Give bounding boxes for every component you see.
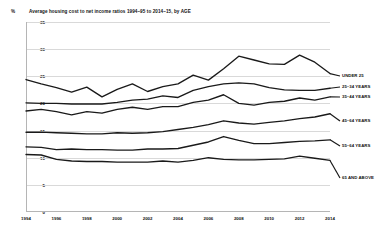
series-leader-line — [330, 87, 340, 88]
series-label-35-44-years: 35–44 YEARS — [342, 94, 370, 99]
x-axis-tick-label: 2010 — [256, 216, 282, 221]
x-axis-tick-label: 2014 — [317, 216, 343, 221]
series-leader-line — [330, 114, 340, 121]
series-label-55-64-years: 55–64 YEARS — [342, 143, 370, 148]
series-label-65-and-above: 65 AND ABOVE — [342, 175, 374, 180]
series-line — [26, 137, 330, 151]
x-axis-tick-label: 2012 — [287, 216, 313, 221]
series-label-under-25: UNDER 25 — [342, 73, 364, 78]
x-axis-tick-label: 1994 — [13, 216, 39, 221]
x-axis-tick-label: 1998 — [74, 216, 100, 221]
plot-area — [26, 22, 330, 212]
chart-title: Average housing cost to net income ratio… — [29, 9, 191, 14]
series-line — [26, 114, 330, 134]
x-axis-tick-label: 2008 — [226, 216, 252, 221]
series-leader-line — [330, 74, 340, 76]
series-leader-line — [330, 160, 340, 178]
series-line — [26, 154, 330, 162]
series-line — [26, 55, 330, 97]
series-lines — [26, 22, 330, 212]
x-axis-tick-label: 2006 — [195, 216, 221, 221]
series-label-45-64-years: 45–64 YEARS — [342, 118, 370, 123]
x-axis-tick-label: 1996 — [43, 216, 69, 221]
y-axis-unit-label: % — [11, 9, 15, 14]
chart-container: % Average housing cost to net income rat… — [0, 0, 377, 238]
series-leader-line — [330, 140, 340, 146]
x-axis-tick-label: 2000 — [104, 216, 130, 221]
x-axis-tick-label: 2004 — [165, 216, 191, 221]
x-axis-tick-label: 2002 — [135, 216, 161, 221]
series-label-25-34-years: 25–34 YEARS — [342, 84, 370, 89]
